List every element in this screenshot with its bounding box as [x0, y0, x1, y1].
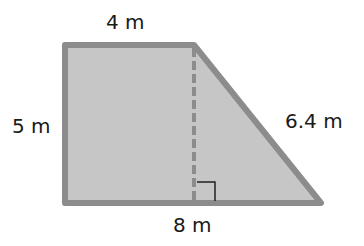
top-side-label: 4 m: [106, 10, 145, 34]
trapezoid-diagram: 4 m 5 m 6.4 m 8 m: [0, 0, 364, 246]
bottom-side-label: 8 m: [173, 213, 212, 237]
left-side-label: 5 m: [12, 114, 51, 138]
slant-side-label: 6.4 m: [285, 109, 343, 133]
